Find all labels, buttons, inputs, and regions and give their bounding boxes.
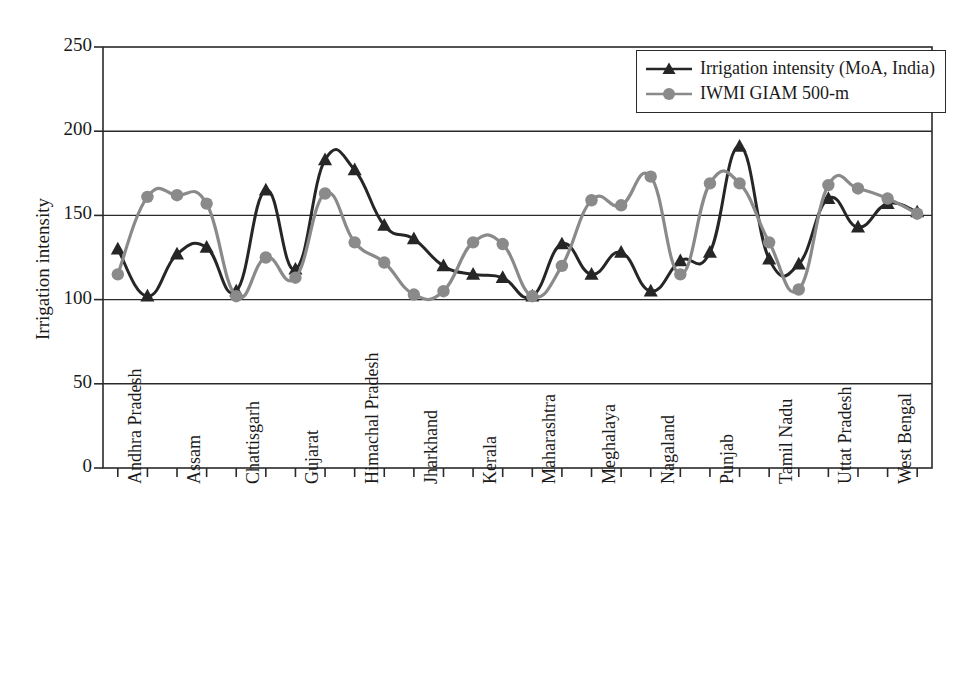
x-tick-label: Nagaland: [658, 415, 679, 484]
legend-label-iwmi: IWMI GIAM 500-m: [700, 83, 849, 104]
legend-marker-triangle-icon: [645, 59, 693, 79]
legend-entry-moa: Irrigation intensity (MoA, India): [645, 56, 935, 81]
legend-entry-iwmi: IWMI GIAM 500-m: [645, 81, 935, 106]
x-tick-label: Jharkhand: [421, 410, 442, 484]
x-tick-label: Kerala: [480, 436, 501, 484]
y-tick-label: 250: [20, 34, 92, 56]
x-tick-label: Andhra Pradesh: [125, 369, 146, 484]
x-tick-label: Meghalaya: [599, 404, 620, 484]
y-axis-ticks: [94, 47, 103, 468]
chart-figure: Irrigation intensity 250200150100500 And…: [0, 0, 973, 679]
y-tick-label: 200: [20, 118, 92, 140]
y-tick-label: 100: [20, 287, 92, 309]
x-tick-label: Maharashtra: [539, 394, 560, 484]
gridlines: [103, 131, 932, 384]
x-tick-label: Punjab: [717, 434, 738, 484]
y-tick-label: 150: [20, 202, 92, 224]
y-tick-label: 0: [20, 455, 92, 477]
legend-label-moa: Irrigation intensity (MoA, India): [700, 58, 935, 79]
legend-marker-circle-icon: [645, 84, 693, 104]
x-tick-label: Himachal Pradesh: [362, 353, 383, 484]
chart-legend: Irrigation intensity (MoA, India) IWMI G…: [636, 50, 946, 113]
series-iwmi: [112, 170, 924, 302]
data-series: [111, 139, 924, 302]
x-tick-label: Tamil Nadu: [776, 399, 797, 484]
x-tick-label: Uttat Pradesh: [835, 387, 856, 484]
x-tick-label: Assam: [184, 435, 205, 484]
series-moa: [111, 139, 924, 302]
x-tick-label: West Bengal: [895, 393, 916, 484]
x-tick-label: Gujarat: [302, 430, 323, 484]
x-tick-label: Chattisgarh: [243, 401, 264, 484]
x-axis-ticks: [118, 468, 917, 477]
y-tick-label: 50: [20, 371, 92, 393]
